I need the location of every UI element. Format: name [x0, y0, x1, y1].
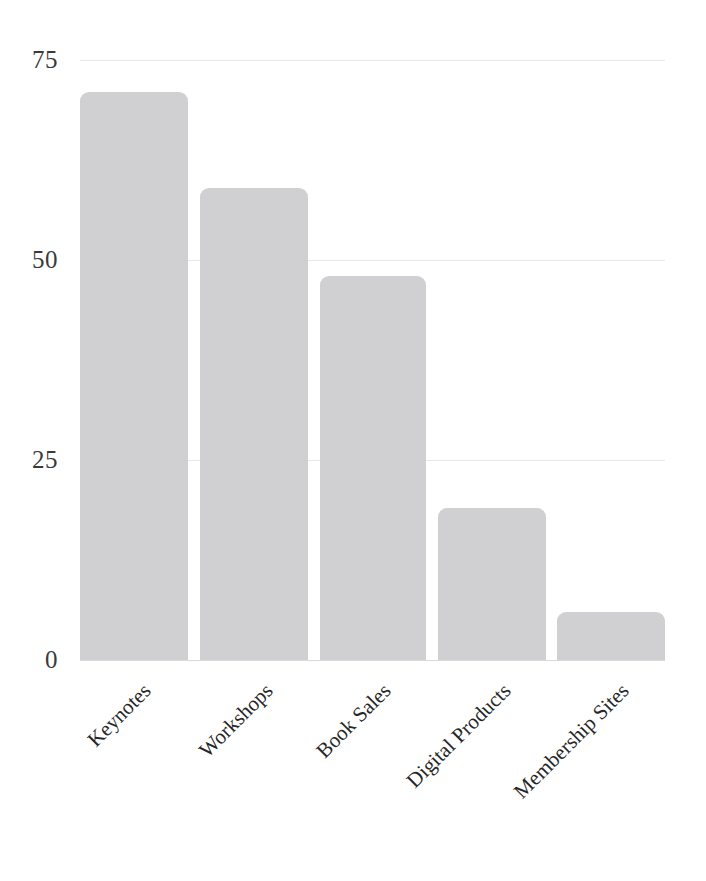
x-axis-category-labels: Keynotes Workshops Book Sales Digital Pr…	[0, 0, 706, 881]
bar-chart: 75 50 25 0 Keynotes Workshops Book Sales…	[0, 0, 706, 881]
